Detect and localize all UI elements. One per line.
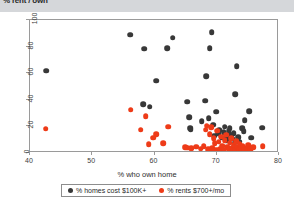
data-point-own	[147, 104, 153, 110]
y-tick-mark	[26, 19, 29, 20]
x-tick-mark	[278, 152, 279, 155]
x-tick-label: 40	[25, 157, 33, 164]
data-point-rent	[146, 142, 152, 148]
plot-area	[29, 19, 278, 152]
data-point-own	[170, 35, 176, 41]
data-point-rent	[154, 131, 160, 137]
data-point-own	[209, 29, 215, 35]
y-tick-label: 80	[27, 41, 34, 49]
legend-label-rent: % rents $700+/mo	[167, 187, 224, 194]
data-point-rent	[143, 113, 149, 119]
legend-label-own: % homes cost $100K+	[76, 187, 146, 194]
y-tick-label: 100	[31, 13, 38, 25]
x-tick-label: 80	[274, 157, 282, 164]
data-point-own	[206, 115, 212, 121]
data-point-rent	[138, 127, 144, 133]
x-tick-mark	[91, 152, 92, 155]
data-point-own	[140, 101, 146, 107]
data-point-own	[203, 74, 209, 80]
chart-legend: % homes cost $100K+ % rents $700+/mo	[61, 184, 231, 197]
data-point-rent	[43, 126, 49, 132]
legend-swatch-rent-icon	[159, 188, 164, 193]
x-tick-label: 60	[150, 157, 158, 164]
data-point-rent	[128, 107, 134, 113]
data-point-rent	[215, 128, 221, 134]
data-point-rent	[260, 144, 266, 150]
x-tick-mark	[154, 152, 155, 155]
x-tick-label: 70	[212, 157, 220, 164]
data-point-own	[43, 68, 49, 74]
data-point-own	[188, 127, 194, 133]
data-point-own	[259, 125, 265, 131]
data-point-own	[242, 117, 248, 123]
data-point-own	[248, 135, 254, 141]
data-point-own	[141, 46, 147, 52]
x-tick-mark	[216, 152, 217, 155]
data-point-rent	[165, 124, 171, 130]
window-header-bar: % rent / own	[0, 0, 294, 12]
data-point-own	[187, 114, 193, 120]
y-tick-label: 40	[27, 94, 34, 102]
data-point-rent	[251, 145, 257, 151]
data-point-rent	[160, 140, 166, 146]
legend-swatch-own-icon	[68, 188, 73, 193]
x-tick-label: 50	[87, 157, 95, 164]
data-point-own	[164, 45, 170, 51]
data-point-own	[213, 109, 219, 115]
data-point-own	[246, 108, 252, 114]
data-point-rent	[208, 124, 214, 130]
data-point-own	[127, 32, 133, 38]
data-point-own	[241, 128, 247, 134]
data-point-own	[234, 63, 240, 69]
data-point-own	[207, 46, 213, 52]
data-point-own	[154, 78, 160, 84]
y-tick-label: 60	[27, 68, 34, 76]
data-point-own	[233, 91, 239, 97]
legend-item-own[interactable]: % homes cost $100K+	[68, 187, 146, 194]
y-tick-label: 0	[23, 150, 30, 154]
x-axis-label: % who own home	[0, 170, 294, 179]
scatter-chart-figure: 4050607080020406080100 % who own home % …	[0, 12, 294, 199]
legend-item-rent[interactable]: % rents $700+/mo	[159, 187, 224, 194]
y-tick-label: 20	[27, 121, 34, 129]
data-point-own	[185, 99, 191, 105]
window-title: % rent / own	[3, 0, 48, 5]
data-point-own	[202, 98, 208, 104]
